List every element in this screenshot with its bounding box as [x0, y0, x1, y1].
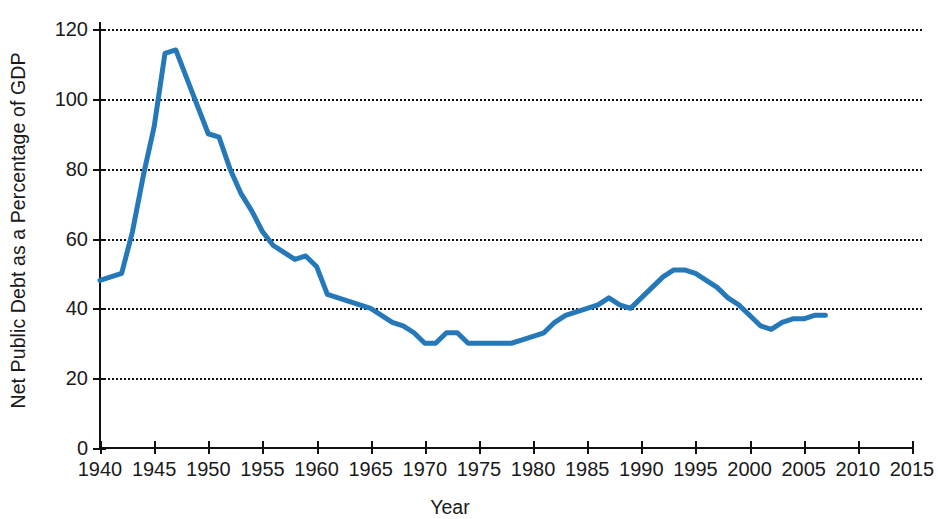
y-tick-100 [93, 99, 106, 101]
gridline-y-120 [100, 29, 922, 31]
x-tick-label-1960: 1960 [287, 458, 347, 481]
x-tick-label-1950: 1950 [178, 458, 238, 481]
y-tick-label-120: 120 [26, 18, 88, 41]
x-tick-2010 [858, 441, 860, 454]
x-tick-label-1995: 1995 [665, 458, 725, 481]
x-tick-1995 [695, 441, 697, 454]
y-tick-label-80: 80 [26, 157, 88, 180]
x-tick-2005 [804, 441, 806, 454]
x-tick-1990 [641, 441, 643, 454]
y-tick-label-100: 100 [26, 87, 88, 110]
x-tick-label-1970: 1970 [395, 458, 455, 481]
y-axis-line [99, 22, 101, 450]
gridline-y-100 [100, 99, 922, 101]
gridline-y-60 [100, 239, 922, 241]
y-tick-40 [93, 308, 106, 310]
x-tick-label-2005: 2005 [774, 458, 834, 481]
y-tick-20 [93, 378, 106, 380]
gridline-y-40 [100, 308, 922, 310]
x-axis-title: Year [100, 496, 800, 519]
y-tick-label-60: 60 [26, 227, 88, 250]
y-tick-label-40: 40 [26, 297, 88, 320]
y-tick-120 [93, 29, 106, 31]
x-tick-label-2010: 2010 [828, 458, 888, 481]
x-tick-1950 [208, 441, 210, 454]
gridline-y-80 [100, 169, 922, 171]
x-tick-1985 [587, 441, 589, 454]
plot-area [100, 29, 912, 448]
x-tick-2015 [912, 441, 914, 454]
x-tick-1960 [317, 441, 319, 454]
y-tick-label-20: 20 [26, 367, 88, 390]
x-tick-1975 [479, 441, 481, 454]
x-tick-label-1945: 1945 [124, 458, 184, 481]
x-tick-1965 [371, 441, 373, 454]
y-tick-80 [93, 169, 106, 171]
y-tick-60 [93, 239, 106, 241]
x-tick-2000 [750, 441, 752, 454]
x-tick-1970 [425, 441, 427, 454]
x-tick-label-1940: 1940 [70, 458, 130, 481]
x-axis-title-text: Year [430, 496, 469, 518]
x-tick-label-1990: 1990 [611, 458, 671, 481]
x-tick-label-1980: 1980 [503, 458, 563, 481]
gridline-y-20 [100, 378, 922, 380]
x-tick-1945 [154, 441, 156, 454]
x-tick-1940 [100, 441, 102, 454]
x-tick-label-1965: 1965 [341, 458, 401, 481]
x-tick-1980 [533, 441, 535, 454]
y-tick-label-0: 0 [26, 437, 88, 460]
x-tick-1955 [262, 441, 264, 454]
x-tick-label-1955: 1955 [232, 458, 292, 481]
x-tick-label-2000: 2000 [720, 458, 780, 481]
x-tick-label-2015: 2015 [882, 458, 938, 481]
x-tick-label-1985: 1985 [557, 458, 617, 481]
x-tick-label-1975: 1975 [449, 458, 509, 481]
x-axis-line [99, 447, 912, 449]
